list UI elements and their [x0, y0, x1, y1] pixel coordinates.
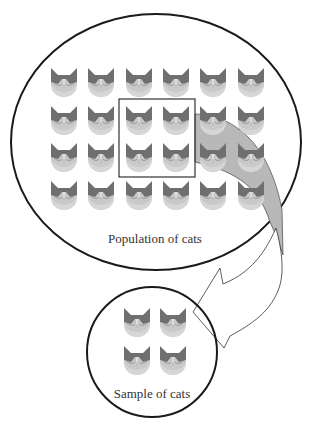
- population-label: Population of cats: [108, 231, 202, 247]
- sample-cat-grid: [124, 308, 186, 375]
- sample-label: Sample of cats: [114, 386, 191, 402]
- sampling-arrow-lower: [193, 228, 282, 348]
- sampling-diagram: [0, 0, 312, 425]
